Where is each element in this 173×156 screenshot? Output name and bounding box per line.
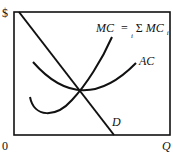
x-axis-label: Q [162, 139, 171, 153]
marginal-cost-curve [30, 37, 112, 113]
mc-label-rhs: MC [145, 21, 165, 35]
origin-label: 0 [2, 139, 8, 153]
mc-label-rhs-sub: i [167, 29, 169, 37]
mc-label-sum-sub: i [131, 32, 133, 40]
cost-curves-diagram: $ 0 Q MC = Σ MC i i AC D [0, 0, 173, 156]
mc-label-sum: Σ [136, 21, 143, 35]
y-axis-label: $ [2, 6, 8, 20]
mc-label-main: MC [95, 21, 115, 35]
mc-label-eq: = [121, 21, 128, 35]
demand-label: D [111, 115, 121, 129]
ac-label: AC [138, 54, 155, 68]
